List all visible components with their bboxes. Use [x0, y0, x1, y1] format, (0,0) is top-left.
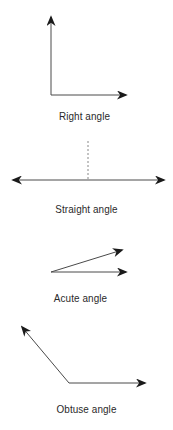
right-angle-label: Right angle: [7, 110, 163, 122]
obtuse-angle-left-ray: [22, 327, 69, 383]
obtuse-angle-figure: [22, 327, 145, 383]
right-angle-figure: [51, 17, 126, 95]
straight-angle-figure: [13, 141, 164, 180]
acute-angle-label: Acute angle: [3, 292, 159, 304]
angles-diagram: [0, 0, 173, 430]
acute-angle-upper-ray: [51, 250, 122, 272]
obtuse-angle-label: Obtuse angle: [9, 403, 165, 415]
straight-angle-label: Straight angle: [9, 203, 165, 215]
acute-angle-figure: [51, 250, 126, 272]
